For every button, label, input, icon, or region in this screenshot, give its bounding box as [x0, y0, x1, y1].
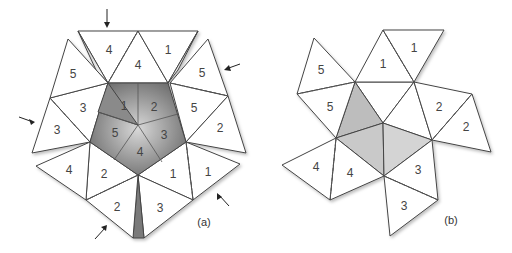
num-a-bottom-right: 3	[157, 201, 164, 215]
panel-b-label: (b)	[444, 214, 457, 226]
num-b-bottom-inner: 3	[415, 163, 422, 177]
num-a-lr-inner: 1	[170, 167, 177, 181]
arrow-icon	[95, 225, 107, 239]
num-a-ll-outer: 4	[66, 163, 73, 177]
num-a-center-1: 1	[121, 99, 128, 113]
num-a-ur-inner: 5	[191, 101, 198, 115]
num-a-upper-left: 5	[70, 67, 77, 81]
arrow-icon	[104, 9, 110, 28]
num-a-center-4: 4	[137, 145, 144, 159]
pentagon-net-diagram: 4 4 1 5 5 2 1 1 3 2 2 4 3 3 5 1 2 3 4 5 …	[0, 0, 512, 253]
num-a-right: 2	[217, 121, 224, 135]
num-a-lr-outer: 1	[205, 165, 212, 179]
num-b-left-outer: 4	[313, 160, 320, 174]
num-b-top-outer: 1	[411, 41, 418, 55]
panel-b	[282, 30, 491, 236]
num-b-right-inner: 2	[436, 100, 443, 114]
arrow-icon	[224, 64, 240, 71]
num-a-center-5: 5	[112, 126, 119, 140]
num-a-center-3: 3	[161, 128, 168, 142]
arrow-icon	[19, 117, 35, 125]
num-a-left-outer: 3	[54, 123, 61, 137]
num-a-top-right: 1	[165, 43, 172, 57]
num-b-top-inner: 1	[380, 57, 387, 71]
num-b-left-inner: 4	[347, 166, 354, 180]
arrow-icon	[217, 193, 229, 206]
num-a-top-inner: 4	[135, 58, 142, 72]
num-a-left-inner: 3	[80, 101, 87, 115]
num-a-ll-inner: 2	[101, 167, 108, 181]
num-a-ur-outer: 5	[199, 66, 206, 80]
num-b-ul-outer: 5	[318, 63, 325, 77]
num-b-bottom-outer: 3	[401, 199, 408, 213]
num-b-right-outer: 2	[463, 120, 470, 134]
num-a-bottom-left: 2	[114, 200, 121, 214]
num-a-center-2: 2	[151, 100, 158, 114]
panel-a-label: (a)	[197, 216, 210, 228]
num-a-top-left: 4	[106, 43, 113, 57]
num-b-ul-inner: 5	[327, 100, 334, 114]
face-b-left-outer	[282, 138, 336, 200]
